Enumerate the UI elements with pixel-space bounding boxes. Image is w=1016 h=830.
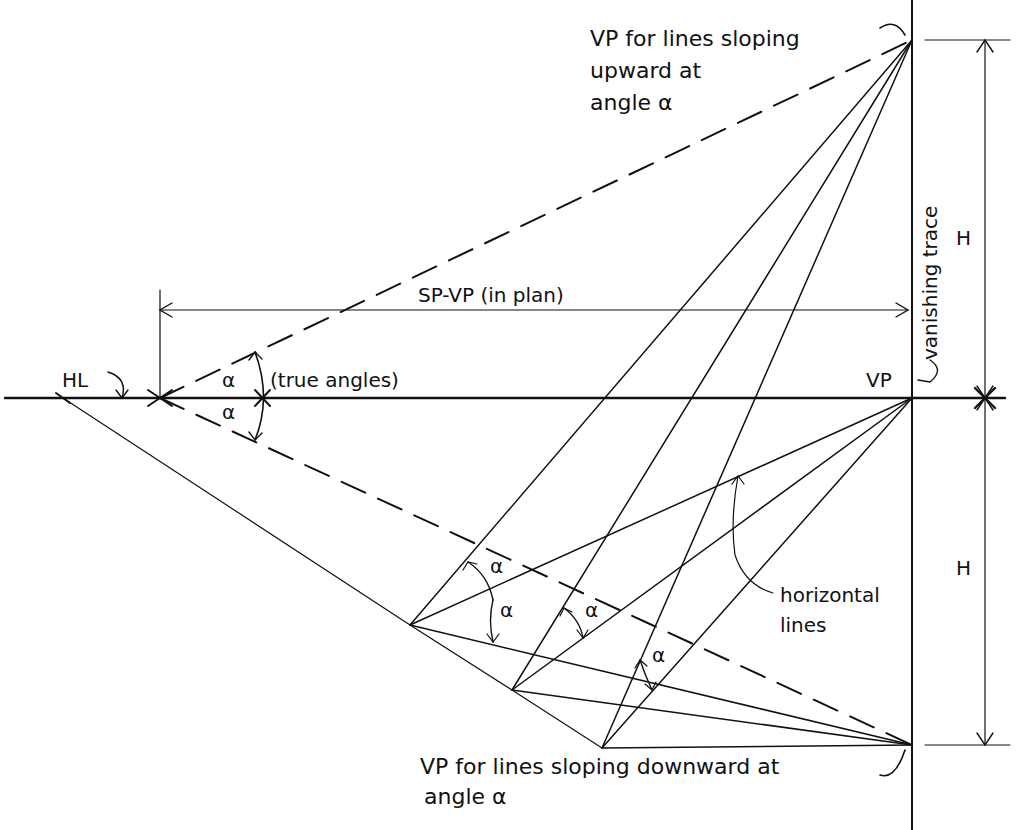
height-label-upper: H xyxy=(956,228,971,248)
horizontal-lines-label-2: lines xyxy=(780,615,827,635)
perspective-diagram xyxy=(0,0,1016,830)
horizontal-lines-label-1: horizontal xyxy=(780,585,880,605)
vp-down-label-line2: angle α xyxy=(424,786,507,808)
vp-up-label-line2: upward at xyxy=(590,60,701,82)
hl-label: HL xyxy=(62,370,88,390)
vp-up-label-line3: angle α xyxy=(590,92,673,114)
alpha-label-3: α xyxy=(585,600,598,620)
alpha-upper-label: α xyxy=(222,370,235,390)
alpha-label-2: α xyxy=(500,600,513,620)
sp-vp-label: SP-VP (in plan) xyxy=(418,285,564,305)
alpha-lower-label: α xyxy=(222,402,235,422)
dashed-upward-line xyxy=(160,40,912,398)
true-angles-label: (true angles) xyxy=(270,370,399,390)
vp-up-label-line1: VP for lines sloping xyxy=(590,28,800,50)
vanishing-trace-label: vanishing trace xyxy=(920,206,940,360)
vp-down-label-line1: VP for lines sloping downward at xyxy=(420,756,779,778)
ground-line xyxy=(63,398,602,748)
alpha-label-4: α xyxy=(652,645,665,665)
vp-label: VP xyxy=(866,370,892,390)
height-label-lower: H xyxy=(956,558,971,578)
alpha-label-1: α xyxy=(490,556,503,576)
